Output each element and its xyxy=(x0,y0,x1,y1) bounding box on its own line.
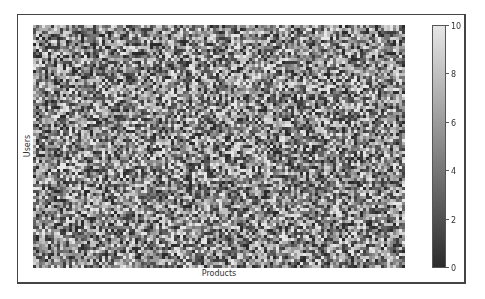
colorbar-tick-label: 6 xyxy=(451,119,456,128)
colorbar-tick xyxy=(446,73,449,74)
y-axis-label: Users xyxy=(23,126,32,166)
colorbar-tick-label: 2 xyxy=(451,216,456,225)
colorbar-tick-label: 0 xyxy=(451,264,456,273)
colorbar-gradient xyxy=(432,25,446,268)
colorbar-tick-label: 10 xyxy=(451,22,461,31)
colorbar-tick xyxy=(446,267,449,268)
heatmap-area xyxy=(33,25,405,268)
heatmap-canvas xyxy=(33,25,405,268)
colorbar-tick-label: 8 xyxy=(451,70,456,79)
x-axis-label: Products xyxy=(33,269,405,278)
colorbar-tick xyxy=(446,170,449,171)
colorbar-tick xyxy=(446,25,449,26)
colorbar-tick-label: 4 xyxy=(451,167,456,176)
colorbar xyxy=(432,25,446,268)
colorbar-tick xyxy=(446,122,449,123)
colorbar-tick xyxy=(446,219,449,220)
